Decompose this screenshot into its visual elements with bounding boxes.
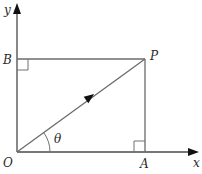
x-axis-arrow-icon (188, 148, 199, 156)
y-axis-label: y (3, 3, 11, 17)
x-axis-label: x (193, 156, 200, 170)
angle-theta-label: θ (54, 132, 62, 146)
vector-diagram: y x B P O A θ (0, 0, 202, 174)
x-axis (17, 148, 199, 156)
point-p-label: P (149, 49, 159, 63)
point-b-label: B (2, 53, 12, 67)
y-axis-arrow-icon (13, 3, 21, 14)
right-angle-mark-a (134, 141, 145, 152)
point-a-label: A (139, 157, 149, 171)
vector-op (17, 59, 145, 152)
angle-arc (44, 133, 50, 152)
origin-label: O (3, 156, 13, 170)
y-axis (13, 3, 21, 152)
right-angle-mark-b (17, 59, 28, 70)
